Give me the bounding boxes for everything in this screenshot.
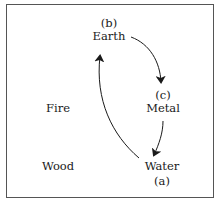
metal-tag: (c): [155, 89, 170, 101]
arrow-earth-to-metal: [131, 37, 161, 82]
water-label: Water: [145, 160, 180, 172]
wood-label: Wood: [42, 160, 74, 172]
arrow-water-to-earth: [99, 56, 139, 158]
water-tag: (a): [154, 175, 170, 187]
arrow-metal-to-water: [154, 121, 163, 155]
metal-label: Metal: [146, 102, 180, 114]
fire-label: Fire: [46, 102, 70, 114]
earth-tag: (b): [101, 17, 117, 29]
earth-label: Earth: [93, 30, 126, 42]
